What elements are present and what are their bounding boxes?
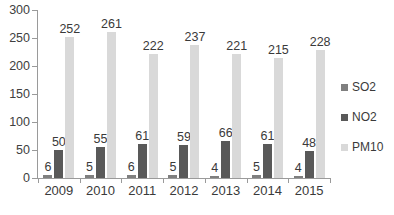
- x-axis-separator: [205, 178, 206, 183]
- bar-group: 559237: [163, 10, 205, 178]
- bar-no2-2015[interactable]: [305, 151, 314, 178]
- bar-so2-2011[interactable]: [127, 175, 136, 178]
- x-axis-label-2015: 2015: [288, 184, 330, 198]
- x-axis-label-2010: 2010: [80, 184, 122, 198]
- x-axis-separator: [288, 178, 289, 183]
- bar-group: 555261: [80, 10, 122, 178]
- x-axis-separator: [38, 178, 39, 183]
- x-axis-separator: [247, 178, 248, 183]
- y-axis-tick-label: 100: [0, 116, 30, 128]
- bar-pm10-2013[interactable]: [232, 54, 241, 178]
- bar-group: 650252: [38, 10, 80, 178]
- legend-label: NO2: [352, 111, 377, 123]
- y-axis-tick-label: 200: [0, 60, 30, 72]
- bar-no2-2013[interactable]: [221, 141, 230, 178]
- legend-swatch-icon: [341, 114, 348, 121]
- bar-no2-2011[interactable]: [138, 144, 147, 178]
- bar-group: 466221: [205, 10, 247, 178]
- bar-pm10-2015[interactable]: [316, 50, 325, 178]
- y-axis-tick-label: 0: [0, 172, 30, 184]
- bar-pm10-2014[interactable]: [274, 58, 283, 178]
- bar-so2-2015[interactable]: [294, 176, 303, 178]
- bar-group: 561215: [247, 10, 289, 178]
- bar-so2-2009[interactable]: [43, 175, 52, 178]
- bar-group: 448228: [288, 10, 330, 178]
- legend-swatch-icon: [341, 144, 348, 151]
- bar-no2-2014[interactable]: [263, 144, 272, 178]
- x-axis-label-2014: 2014: [247, 184, 289, 198]
- x-axis-separator: [121, 178, 122, 183]
- chart-legend: SO2NO2PM10: [341, 72, 383, 162]
- bar-so2-2014[interactable]: [252, 175, 261, 178]
- x-axis-label-2013: 2013: [205, 184, 247, 198]
- bar-pm10-2010[interactable]: [107, 32, 116, 178]
- bar-so2-2012[interactable]: [168, 175, 177, 178]
- bar-group: 661222: [121, 10, 163, 178]
- y-axis-tick-label: 150: [0, 88, 30, 100]
- bar-value-label: 228: [306, 36, 334, 48]
- x-axis-separator: [80, 178, 81, 183]
- bar-pm10-2009[interactable]: [65, 37, 74, 178]
- x-axis-label-2012: 2012: [163, 184, 205, 198]
- bar-pm10-2012[interactable]: [190, 45, 199, 178]
- bar-no2-2012[interactable]: [179, 145, 188, 178]
- bar-no2-2009[interactable]: [54, 150, 63, 178]
- legend-item-pm10[interactable]: PM10: [341, 132, 383, 162]
- bar-so2-2013[interactable]: [210, 176, 219, 178]
- legend-item-no2[interactable]: NO2: [341, 102, 383, 132]
- legend-label: PM10: [352, 141, 383, 153]
- legend-swatch-icon: [341, 84, 348, 91]
- y-axis-tick-label: 250: [0, 32, 30, 44]
- legend-label: SO2: [352, 81, 376, 93]
- bar-chart: 050100150200250300 650252555261661222559…: [0, 0, 394, 215]
- plot-area: 6502525552616612225592374662215612154482…: [38, 10, 330, 178]
- bar-so2-2010[interactable]: [85, 175, 94, 178]
- clipped-caption: [0, 209, 394, 215]
- x-axis-separator: [330, 178, 331, 183]
- x-axis-label-2009: 2009: [38, 184, 80, 198]
- bar-pm10-2011[interactable]: [149, 54, 158, 178]
- x-axis-line: [37, 178, 330, 179]
- legend-item-so2[interactable]: SO2: [341, 72, 383, 102]
- x-axis-label-2011: 2011: [121, 184, 163, 198]
- y-axis-tick-label: 300: [0, 4, 30, 16]
- x-axis-separator: [163, 178, 164, 183]
- y-axis-tick-label: 50: [0, 144, 30, 156]
- bar-no2-2010[interactable]: [96, 147, 105, 178]
